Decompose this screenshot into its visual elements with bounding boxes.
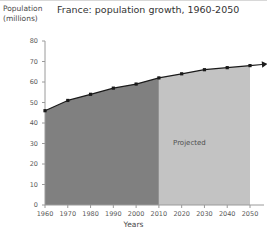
chart-container: Population (millions) France: population… <box>0 0 267 233</box>
x-tick-label: 2010 <box>147 210 171 218</box>
y-tick-label: 30 <box>5 140 38 148</box>
x-tick-label: 2020 <box>170 210 194 218</box>
y-tick-label: 60 <box>5 78 38 86</box>
series-arrow-shaft <box>250 65 262 66</box>
data-point-marker-2000 <box>135 82 138 85</box>
x-tick-label: 2050 <box>238 210 262 218</box>
data-point-marker-2030 <box>203 68 206 71</box>
y-tick-label: 10 <box>5 181 38 189</box>
data-point-marker-1960 <box>43 109 46 112</box>
x-tick-label: 2040 <box>215 210 239 218</box>
data-point-marker-2050 <box>248 64 251 67</box>
area-region-projected <box>159 41 250 205</box>
chart-svg <box>45 41 250 205</box>
data-point-marker-1970 <box>66 99 69 102</box>
y-axis-title-line1: Population <box>3 4 42 13</box>
data-point-marker-1990 <box>112 87 115 90</box>
data-point-marker-2010 <box>157 76 160 79</box>
x-tick-label: 2000 <box>124 210 148 218</box>
area-region-historical <box>45 41 159 205</box>
y-tick-label: 70 <box>5 58 38 66</box>
data-point-marker-1980 <box>89 93 92 96</box>
data-point-marker-2020 <box>180 72 183 75</box>
data-point-marker-2040 <box>226 66 229 69</box>
y-axis-title-line2: (millions) <box>3 14 42 24</box>
y-tick-label: 50 <box>5 99 38 107</box>
series-arrow-head <box>262 61 267 67</box>
projected-annotation: Projected <box>173 139 206 147</box>
x-tick-label: 1980 <box>79 210 103 218</box>
x-tick-label: 2030 <box>192 210 216 218</box>
y-tick-label: 80 <box>5 37 38 45</box>
y-tick-label: 0 <box>5 201 38 209</box>
x-axis-title: Years <box>0 220 267 230</box>
x-tick-label: 1970 <box>56 210 80 218</box>
plot-area <box>45 41 250 205</box>
x-tick-label: 1960 <box>33 210 57 218</box>
y-tick-label: 40 <box>5 119 38 127</box>
chart-title: France: population growth, 1960-2050 <box>57 4 239 15</box>
x-tick-label: 1990 <box>101 210 125 218</box>
y-tick-label: 20 <box>5 160 38 168</box>
y-axis-title: Population (millions) <box>3 4 42 23</box>
